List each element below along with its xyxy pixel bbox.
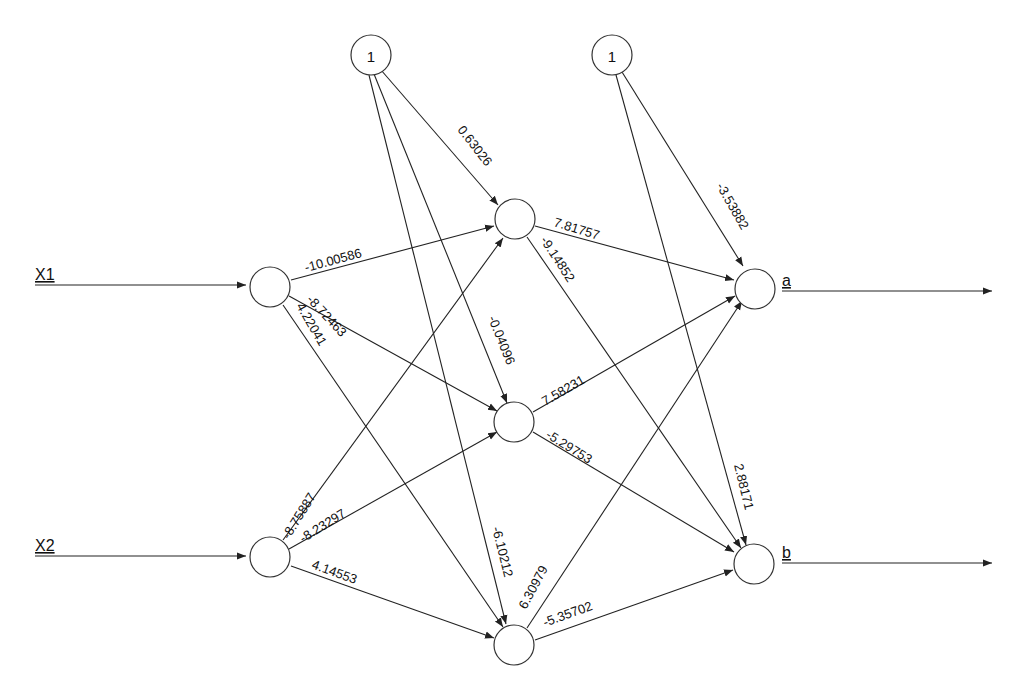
edge-x2-h1: [283, 238, 503, 540]
edge-h3-a: [527, 301, 742, 628]
input-x2-edge: X2: [35, 537, 246, 556]
node-output-b: [734, 544, 774, 584]
node-output-a: [735, 269, 775, 309]
weight-bias1-h2: -0.04096: [485, 314, 518, 367]
output-b-label: b: [782, 544, 791, 561]
edge-bias1-h1: [381, 70, 498, 205]
node-x1: [250, 267, 290, 307]
edge-x1-h1: [291, 226, 494, 280]
node-hidden-1: [495, 199, 535, 239]
output-a-label: a: [782, 272, 791, 289]
weight-h1-b: -9.14852: [537, 233, 578, 284]
edge-bias2-a: [622, 72, 743, 266]
input-x2-label: X2: [35, 537, 55, 554]
node-bias1: 1: [351, 35, 391, 75]
node-bias2: 1: [592, 35, 632, 75]
edge-x2-h3: [291, 566, 494, 638]
input-x1-edge: X1: [35, 266, 246, 285]
bias1-label: 1: [367, 48, 375, 65]
bias2-label: 1: [608, 48, 616, 65]
weight-bias2-a: -3.53882: [713, 180, 752, 232]
weight-h1-a: 7.81757: [552, 215, 601, 243]
weight-h3-b: -5.35702: [541, 598, 594, 630]
output-b-edge: b: [782, 544, 992, 563]
weight-h2-b: -5.29753: [543, 427, 594, 467]
node-hidden-2: [494, 402, 534, 442]
edge-bias2-b: [616, 75, 746, 545]
weight-x2-h3: 4.14553: [310, 557, 359, 587]
neural-network-diagram: X1 X2 a b 0.63026 -0.04096 -6.10212 -10.…: [0, 0, 1023, 686]
output-a-edge: a: [782, 272, 992, 291]
weight-h3-a: 6.30979: [515, 563, 550, 612]
node-x2: [250, 537, 290, 577]
weight-x1-h1: -10.00586: [303, 245, 363, 275]
input-x1-label: X1: [35, 266, 55, 283]
node-hidden-3: [494, 625, 534, 665]
edge-h3-b: [535, 570, 733, 640]
weight-h2-a: 7.58231: [539, 372, 587, 408]
